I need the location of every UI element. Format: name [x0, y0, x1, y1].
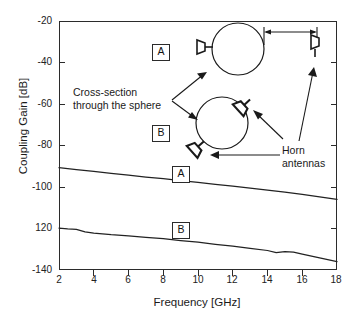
curve-key-a: A [172, 166, 190, 183]
x-tick-label-5: 12 [220, 275, 244, 285]
horn-antennas-line-2: antennas [282, 157, 348, 170]
cross-section-line-2: through the sphere [73, 99, 177, 112]
cross-section-line-1: Cross-section [73, 86, 177, 99]
y-tick-label-6: -140 [15, 265, 52, 275]
inset-key-b: B [152, 125, 170, 142]
x-tick-mark-6 [128, 270, 129, 276]
y-tick-mark-minus40 [59, 62, 65, 63]
curve-key-b: B [172, 222, 190, 239]
y-axis-title: Coupling Gain [dB] [17, 56, 29, 196]
x-tick-label-6: 14 [255, 275, 279, 285]
y-tick-mark-minus120 [59, 228, 65, 229]
y-tick-label-0: -20 [18, 16, 52, 26]
y-tick-mark-minus80 [59, 145, 65, 146]
horn-antennas-annotation: Horn antennas [282, 144, 348, 169]
y-tick-mark-right-minus40 [331, 62, 337, 63]
x-tick-mark-10 [198, 270, 199, 276]
x-tick-label-8: 18 [324, 275, 348, 285]
x-tick-label-2: 6 [116, 275, 140, 285]
horn-antennas-line-1: Horn [282, 144, 348, 157]
x-axis-title: Frequency [GHz] [97, 296, 297, 308]
y-tick-mark-right-minus120 [331, 228, 337, 229]
coupling-gain-figure: -20 -40 -60 -80 -100 120 -140 2 4 6 8 10… [0, 0, 354, 322]
x-tick-label-1: 4 [82, 275, 106, 285]
y-tick-label-5: 120 [15, 223, 52, 233]
x-tick-mark-16 [302, 270, 303, 276]
cross-section-annotation: Cross-section through the sphere [73, 86, 177, 111]
x-tick-mark-14 [267, 270, 268, 276]
y-tick-mark-right-minus60 [331, 104, 337, 105]
y-tick-mark-minus100 [59, 187, 65, 188]
inset-key-a: A [152, 44, 170, 61]
x-tick-label-3: 8 [151, 275, 175, 285]
x-tick-mark-4 [93, 270, 94, 276]
x-tick-label-0: 2 [47, 275, 71, 285]
x-tick-label-7: 16 [290, 275, 314, 285]
x-tick-label-4: 10 [186, 275, 210, 285]
y-tick-mark-right-minus100 [331, 187, 337, 188]
x-tick-mark-12 [232, 270, 233, 276]
x-tick-mark-8 [163, 270, 164, 276]
y-tick-mark-minus60 [59, 104, 65, 105]
